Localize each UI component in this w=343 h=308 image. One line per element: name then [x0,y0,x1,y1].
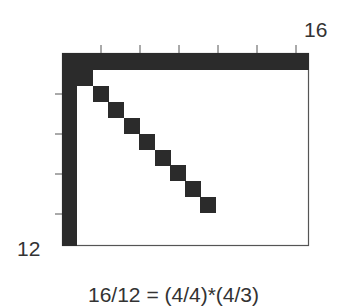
frame-rect [63,54,309,246]
top-bar [62,53,309,70]
diagonal-square [93,86,109,102]
diagonal-square [185,181,201,197]
caption-formula: 16/12 = (4/4)*(4/3) [88,284,259,305]
corner-block [62,53,93,86]
pixel-grid-diagram [0,0,343,308]
top-right-label: 16 [304,19,327,40]
diagonal-square [170,165,186,181]
diagonal-square [200,197,216,213]
diagonal-square [139,134,155,150]
diagonal-square [155,150,171,166]
bottom-left-label: 12 [17,238,40,259]
diagonal-square [124,118,140,134]
diagonal-square [108,102,124,118]
